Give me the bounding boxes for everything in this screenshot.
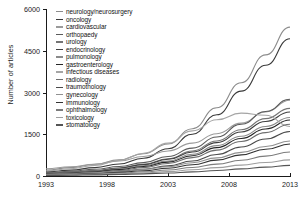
legend-label: gastroenterology	[66, 61, 113, 69]
y-tick-label: 4500	[6, 47, 40, 56]
legend-swatch-icon	[56, 19, 63, 20]
legend-label: ophthalmology	[66, 106, 107, 114]
legend-swatch-icon	[56, 71, 63, 72]
legend-swatch-icon	[56, 117, 63, 118]
legend-item[interactable]: ophthalmology	[56, 106, 152, 114]
legend-swatch-icon	[56, 87, 63, 88]
legend-label: neurology/neurosurgery	[66, 8, 132, 16]
legend-item[interactable]: toxicology	[56, 114, 152, 122]
x-tick-label: 1998	[89, 180, 125, 189]
legend-label: immunology	[66, 99, 100, 107]
legend-label: traumothology	[66, 83, 106, 91]
legend-swatch-icon	[56, 79, 63, 80]
legend-item[interactable]: neurology/neurosurgery	[56, 8, 152, 16]
legend-swatch-icon	[56, 56, 63, 57]
y-tick-label: 1500	[6, 130, 40, 139]
x-tick	[290, 173, 291, 177]
legend-swatch-icon	[56, 102, 63, 103]
legend-label: stomatology	[66, 121, 100, 129]
legend-item[interactable]: cardiovascular	[56, 23, 152, 31]
legend-item[interactable]: pulmonology	[56, 53, 152, 61]
legend-item[interactable]: endocrinology	[56, 46, 152, 54]
legend-swatch-icon	[56, 41, 63, 42]
legend-swatch-icon	[56, 94, 63, 95]
x-tick-label: 2003	[150, 180, 186, 189]
legend-label: cardiovascular	[66, 23, 107, 31]
legend-item[interactable]: stomatology	[56, 121, 152, 129]
legend-swatch-icon	[56, 49, 63, 50]
legend-label: radiology	[66, 76, 91, 84]
legend-swatch-icon	[56, 109, 63, 110]
y-tick-label: 3000	[6, 89, 40, 98]
legend-item[interactable]: oncology	[56, 16, 152, 24]
y-tick-label: 6000	[6, 5, 40, 14]
legend-item[interactable]: traumothology	[56, 83, 152, 91]
x-tick-label: 2008	[211, 180, 247, 189]
legend-swatch-icon	[56, 64, 63, 65]
legend-item[interactable]: gastroenterology	[56, 61, 152, 69]
legend-label: gynecology	[66, 91, 98, 99]
chart-legend: neurology/neurosurgeryoncologycardiovasc…	[56, 8, 152, 129]
legend-label: pulmonology	[66, 53, 102, 61]
x-tick-label: 1993	[28, 180, 64, 189]
legend-label: infectious diseases	[66, 68, 119, 76]
legend-item[interactable]: urology	[56, 38, 152, 46]
legend-swatch-icon	[56, 124, 63, 125]
legend-item[interactable]: infectious diseases	[56, 68, 152, 76]
legend-swatch-icon	[56, 11, 63, 12]
chart-figure: Number of articles 01500300045006000 199…	[0, 0, 306, 201]
legend-label: endocrinology	[66, 46, 105, 54]
legend-swatch-icon	[56, 34, 63, 35]
legend-label: urology	[66, 38, 87, 46]
x-tick-label: 2013	[272, 180, 306, 189]
legend-item[interactable]: orthopaedy	[56, 31, 152, 39]
legend-label: orthopaedy	[66, 31, 97, 39]
legend-item[interactable]: immunology	[56, 99, 152, 107]
legend-item[interactable]: radiology	[56, 76, 152, 84]
legend-item[interactable]: gynecology	[56, 91, 152, 99]
legend-label: toxicology	[66, 114, 94, 122]
legend-label: oncology	[66, 16, 91, 24]
legend-swatch-icon	[56, 26, 63, 27]
